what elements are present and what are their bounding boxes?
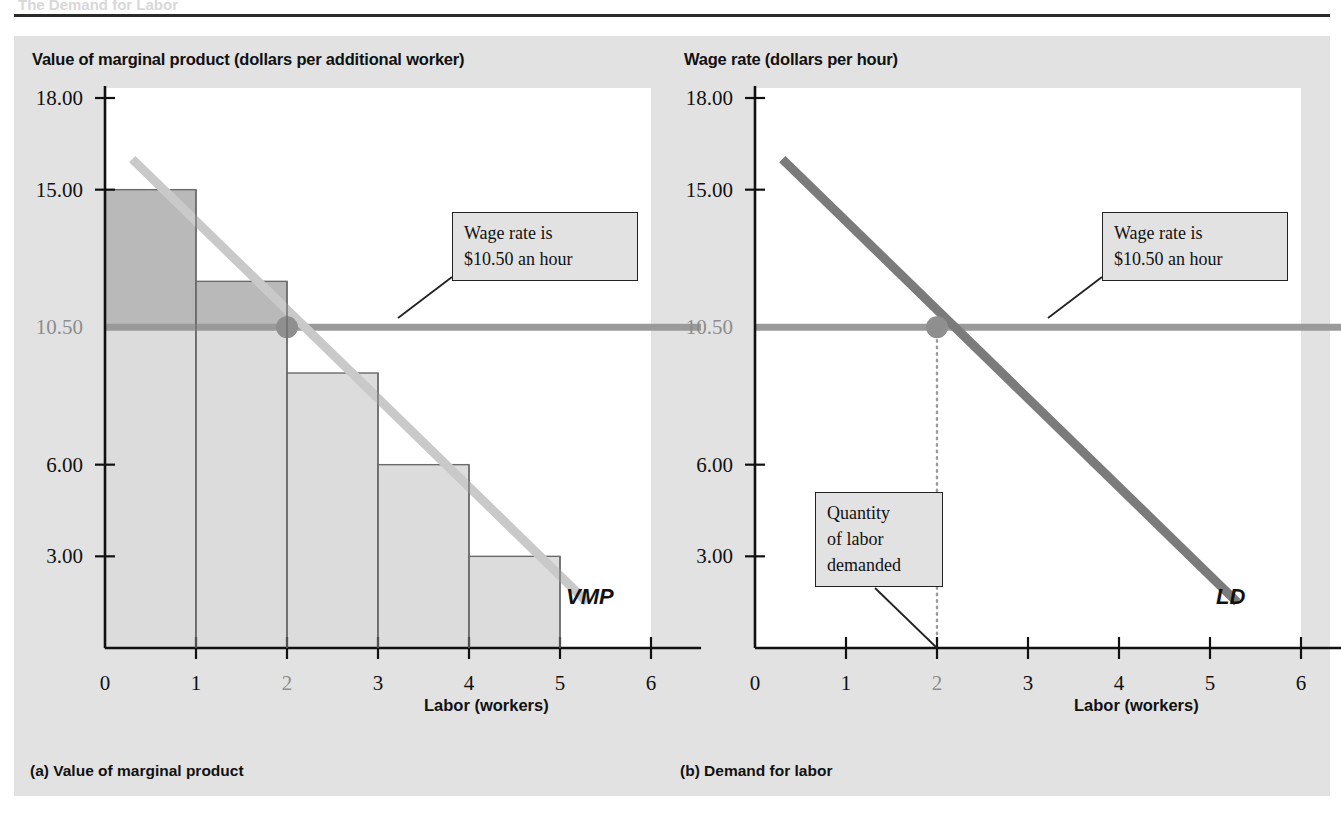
callout-line: Quantity — [827, 500, 931, 526]
x-tick-label: 0 — [750, 671, 761, 695]
x-tick-label: 6 — [1296, 671, 1307, 695]
chart-vector-layer: 18.0015.0010.506.003.000123456VMP18.0015… — [0, 0, 1341, 813]
ld-curve-label: LD — [1216, 584, 1245, 609]
callout-line: Wage rate is — [1114, 220, 1276, 246]
y-tick-label: 10.50 — [686, 315, 733, 339]
callout-line: $10.50 an hour — [1114, 246, 1276, 272]
x-tick-label: 1 — [841, 671, 852, 695]
bar — [378, 465, 469, 648]
bar — [287, 373, 378, 648]
y-tick-label: 15.00 — [686, 178, 733, 202]
vmp-curve-label: VMP — [566, 584, 614, 609]
x-tick-label: 5 — [555, 671, 566, 695]
y-tick-label: 18.00 — [36, 86, 83, 110]
x-tick-label: 2 — [932, 671, 943, 695]
callout-line: of labor — [827, 526, 931, 552]
x-tick-label: 3 — [373, 671, 384, 695]
y-tick-label: 3.00 — [696, 544, 733, 568]
x-tick-label: 6 — [646, 671, 657, 695]
figure-page: The Demand for Labor Value of marginal p… — [0, 0, 1341, 813]
x-tick-label: 4 — [464, 671, 475, 695]
callout-leader-b — [1048, 277, 1102, 318]
x-tick-label: 4 — [1114, 671, 1125, 695]
x-tick-label: 5 — [1205, 671, 1216, 695]
x-tick-label: 2 — [282, 671, 293, 695]
bar-below-wage — [196, 327, 287, 648]
intersection-dot — [926, 316, 948, 338]
callout-wage-rate-a: Wage rate is $10.50 an hour — [452, 212, 638, 281]
x-tick-label: 1 — [191, 671, 202, 695]
callout-leader-a — [398, 277, 452, 318]
bar-below-wage — [105, 327, 196, 648]
x-tick-label: 3 — [1023, 671, 1034, 695]
callout-quantity-demanded: Quantity of labor demanded — [815, 492, 943, 587]
callout-leader-quantity — [875, 588, 937, 648]
y-tick-label: 18.00 — [686, 86, 733, 110]
y-tick-label: 6.00 — [696, 453, 733, 477]
y-tick-label: 6.00 — [46, 453, 83, 477]
callout-line: Wage rate is — [464, 220, 626, 246]
y-tick-label: 15.00 — [36, 178, 83, 202]
callout-wage-rate-b: Wage rate is $10.50 an hour — [1102, 212, 1288, 281]
bar — [469, 556, 560, 648]
y-tick-label: 3.00 — [46, 544, 83, 568]
bar-above-wage — [196, 281, 287, 327]
callout-line: $10.50 an hour — [464, 246, 626, 272]
y-tick-label: 10.50 — [36, 315, 83, 339]
callout-line: demanded — [827, 552, 931, 578]
x-tick-label: 0 — [100, 671, 111, 695]
